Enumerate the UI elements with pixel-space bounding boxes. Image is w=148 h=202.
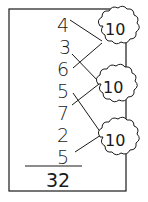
addend-3: 6 <box>57 58 69 80</box>
line-4-to-ten1 <box>70 20 102 41</box>
line-3-to-ten2 <box>72 54 99 82</box>
total: 32 <box>46 169 70 191</box>
addends-column: 4 3 6 5 7 2 5 <box>57 14 71 168</box>
addend-2: 3 <box>59 36 71 58</box>
line-5a-to-ten3 <box>73 93 101 133</box>
ten-label-2: 10 <box>103 78 123 97</box>
addend-4: 5 <box>57 80 69 102</box>
line-7-to-ten2 <box>72 84 99 105</box>
ten-label-1: 10 <box>105 20 125 39</box>
addend-6: 2 <box>57 124 69 146</box>
ten-cloud-2: 10 <box>96 64 137 102</box>
ten-cloud-3: 10 <box>98 117 139 155</box>
addend-7: 5 <box>57 146 69 168</box>
line-5b-to-ten3 <box>75 135 101 152</box>
addend-5: 7 <box>57 102 69 124</box>
make-ten-diagram: 4 3 6 5 7 2 5 32 10 10 10 <box>0 0 148 202</box>
ten-cloud-1: 10 <box>98 6 139 44</box>
ten-label-3: 10 <box>105 131 125 150</box>
line-6-to-ten1 <box>73 43 102 68</box>
addend-1: 4 <box>57 14 69 36</box>
connector-lines <box>70 20 102 152</box>
